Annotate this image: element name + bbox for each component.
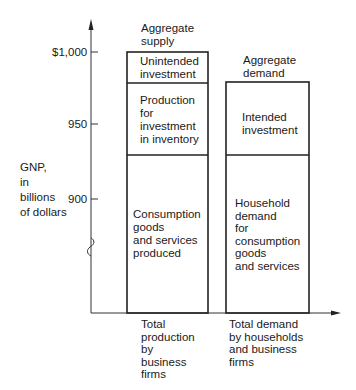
- segment-household-demand: Household demand for consumption goods a…: [235, 197, 300, 272]
- supply-title: Aggregate supply: [141, 22, 194, 48]
- segment-intended-investment: Intended investment: [242, 111, 298, 137]
- tick-label-1000: $1,000: [52, 46, 87, 58]
- tick-label-900: 900: [68, 193, 87, 205]
- segment-production-for-inventory: Production for investment in inventory: [140, 94, 199, 146]
- category-label-demand: Total demand by households and business …: [229, 318, 303, 368]
- segment-unintended-investment: Unintended investment: [140, 55, 199, 81]
- y-axis-label: GNP, in billions of dollars: [20, 160, 67, 220]
- supply-bar: [127, 52, 208, 313]
- tick-label-950: 950: [68, 118, 87, 130]
- y-axis-arrow-icon: [89, 19, 94, 30]
- segment-consumption-produced: Consumption goods and services produced: [133, 208, 201, 260]
- demand-title: Aggregate demand: [243, 54, 296, 80]
- x-axis-arrow-icon: [331, 311, 341, 316]
- category-label-supply: Total production by business firms: [141, 318, 195, 381]
